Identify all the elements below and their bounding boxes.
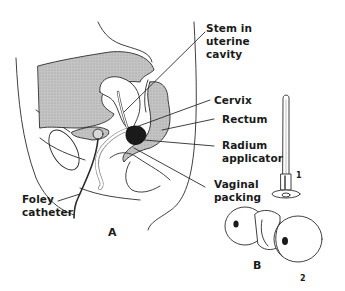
label-rectum: Rectum xyxy=(222,113,267,126)
part-number-1: 1 xyxy=(296,171,302,180)
foley-balloon xyxy=(93,129,103,139)
panel-label-b: B xyxy=(253,259,261,272)
label-vaginal-packing: Vaginal packing xyxy=(214,178,261,204)
panel-label-a: A xyxy=(108,226,117,239)
diagram-canvas: Stem in uterine cavity Cervix Rectum Rad… xyxy=(0,0,345,291)
leader-vaginal xyxy=(134,148,205,187)
label-cervix: Cervix xyxy=(214,94,252,107)
part-number-2: 2 xyxy=(300,274,306,283)
label-stem-in-uterine-cavity: Stem in uterine cavity xyxy=(206,22,252,61)
label-foley-catheter: Foley catheter xyxy=(22,193,73,219)
leader-cervix xyxy=(136,100,210,127)
stem-collar xyxy=(281,174,291,190)
radium-applicator-dark xyxy=(126,126,146,145)
label-radium-applicator: Radium applicator xyxy=(222,139,283,165)
anatomy-illustration xyxy=(0,0,345,291)
